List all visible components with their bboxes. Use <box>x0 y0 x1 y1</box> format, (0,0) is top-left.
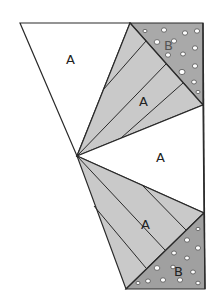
label-fan-lower-a: A <box>141 217 150 232</box>
geometric-proof-diagram: B B A A A A <box>0 0 217 307</box>
label-lower-b: B <box>174 264 183 279</box>
label-top-left-a: A <box>66 52 75 67</box>
label-middle-right-a: A <box>156 150 165 165</box>
label-upper-b: B <box>164 38 173 53</box>
label-fan-upper-a: A <box>139 94 148 109</box>
